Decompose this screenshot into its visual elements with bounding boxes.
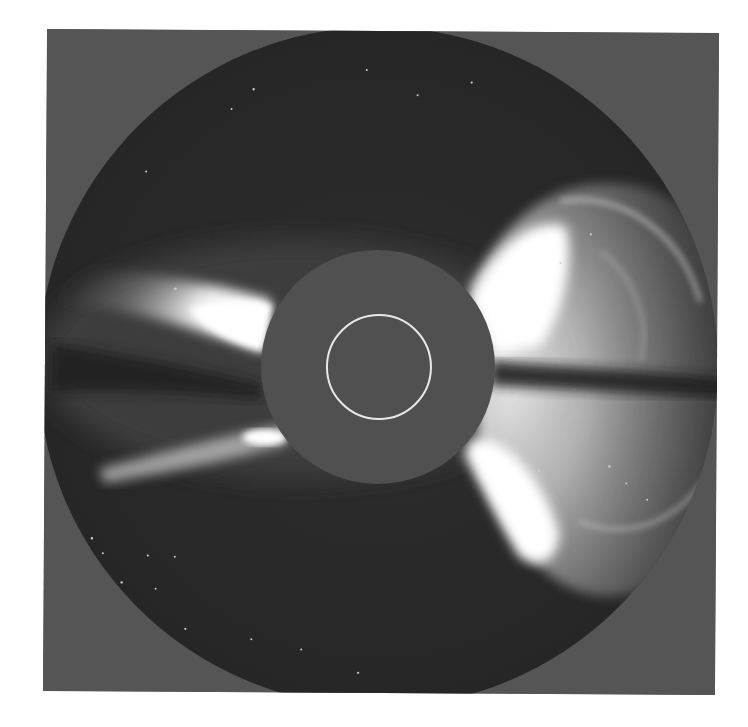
occulter-disk	[260, 249, 495, 484]
coronagraph-scene	[43, 29, 719, 695]
coronagraph-image	[43, 29, 719, 695]
